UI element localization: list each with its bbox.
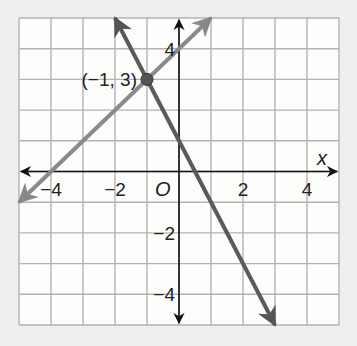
y-tick-label: 4 [164,39,175,60]
x-tick-label: 2 [238,179,249,200]
origin-label: O [155,178,171,200]
y-tick-label: −4 [153,284,175,305]
x-axis-label: x [316,147,328,169]
coordinate-plane: −4−2244−2−4 x O (−1, 3) [0,0,357,346]
intersection-label: (−1, 3) [82,69,137,90]
x-tick-label: −2 [104,179,126,200]
y-tick-label: −2 [153,223,175,244]
intersection-point [141,73,153,85]
x-tick-label: −4 [40,179,62,200]
x-tick-label: 4 [302,179,313,200]
